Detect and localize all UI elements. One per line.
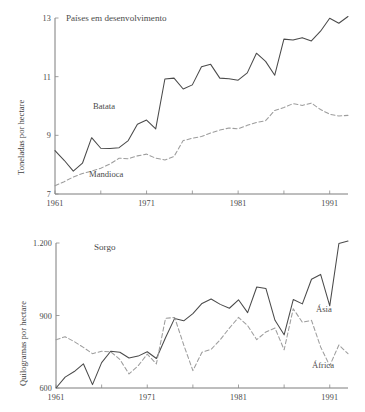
chart-panel-sorghum: Sorgo Quilogramas por hectare Ásia Áfric… — [0, 210, 365, 412]
series-label-africa: África — [312, 360, 334, 370]
bottom-chart-title: Sorgo — [94, 242, 116, 252]
series-label-mandioca: Mandioca — [89, 169, 123, 179]
x-tick-label: 1991 — [321, 199, 338, 208]
top-chart-title: Países em desenvolvimento — [66, 13, 167, 23]
y-tick-label: 9 — [47, 131, 51, 140]
chart-panel-developing-countries: Países em desenvolvimento Toneladas por … — [0, 0, 365, 210]
series-label-asia: Ásia — [316, 304, 332, 314]
series-label-batata: Batata — [93, 101, 115, 111]
series-line-batata — [55, 17, 348, 172]
x-tick-label: 1991 — [321, 393, 338, 402]
y-tick-label: 7 — [47, 190, 51, 199]
bottom-chart-y-axis-title: Quilogramas por hectare — [18, 301, 28, 386]
x-tick-label: 1981 — [230, 393, 247, 402]
bottom-chart-canvas — [0, 210, 365, 412]
figure-root: Países em desenvolvimento Toneladas por … — [0, 0, 365, 412]
x-tick-label: 1971 — [138, 199, 155, 208]
x-tick-label: 1961 — [48, 393, 65, 402]
y-tick-label: 900 — [39, 311, 52, 320]
y-tick-label: 13 — [43, 14, 51, 23]
top-chart-y-axis-title: Toneladas por hectare — [16, 100, 26, 175]
y-tick-label: 11 — [43, 72, 51, 81]
y-tick-label: 600 — [39, 384, 52, 393]
x-tick-label: 1961 — [47, 199, 64, 208]
top-chart-canvas — [0, 0, 365, 210]
series-line-africa — [56, 309, 348, 374]
x-tick-label: 1981 — [230, 199, 247, 208]
y-tick-label: 1.200 — [33, 239, 52, 248]
x-tick-label: 1971 — [139, 393, 156, 402]
series-line-asia — [56, 241, 348, 388]
